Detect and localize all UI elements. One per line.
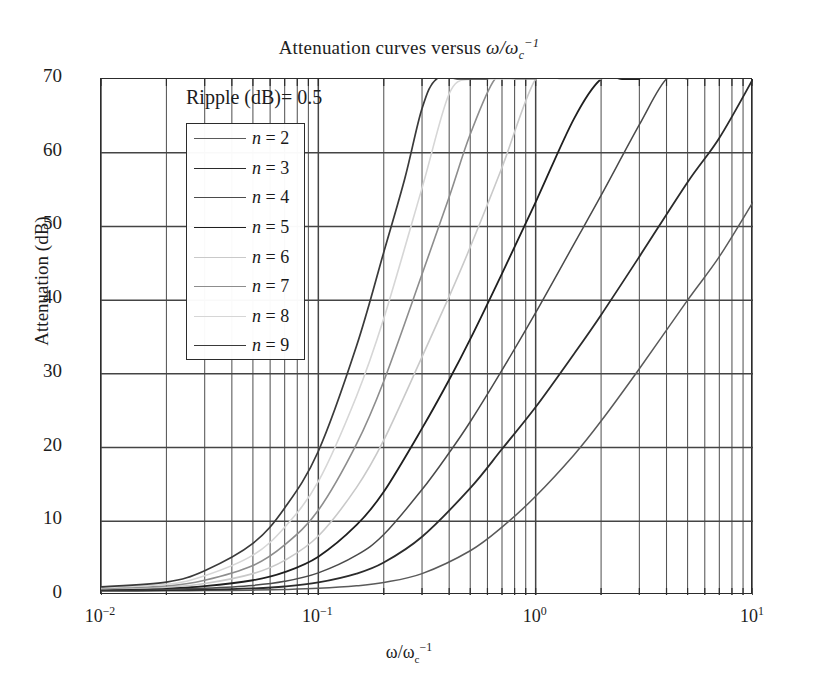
attenuation-chart-figure: Attenuation curves versus ω/ωc−1 Attenua… <box>0 0 818 694</box>
y-tick-label-30: 30 <box>2 360 62 382</box>
xlabel-superscript: −1 <box>420 640 433 654</box>
legend-item-n-7: n = 7 <box>187 272 304 302</box>
x-tick-label-0: 100 <box>500 604 570 627</box>
xlabel-subscript: c <box>415 653 420 665</box>
y-axis-label: Attenuation (dB) <box>31 171 53 391</box>
y-tick-label-0: 0 <box>2 581 62 603</box>
y-tick-label-70: 70 <box>2 65 62 87</box>
legend-line-swatch-n-5 <box>194 227 246 228</box>
title-omega: ω <box>486 37 500 58</box>
chart-title: Attenuation curves versus ω/ωc−1 <box>0 36 818 63</box>
legend-item-n-3: n = 3 <box>187 154 304 184</box>
y-tick-label-40: 40 <box>2 286 62 308</box>
legend-line-swatch-n-9 <box>194 345 246 346</box>
legend-item-n-9: n = 9 <box>187 331 304 361</box>
y-tick-label-20: 20 <box>2 434 62 456</box>
y-tick-label-50: 50 <box>2 212 62 234</box>
legend-line-swatch-n-6 <box>194 257 246 258</box>
legend-line-swatch-n-3 <box>194 168 246 169</box>
ripple-annotation: Ripple (dB)= 0.5 <box>186 86 322 109</box>
x-axis-label: ω/ωc−1 <box>0 640 818 665</box>
legend-label-n-9: n = 9 <box>252 335 289 356</box>
curve-n-5 <box>101 79 639 589</box>
legend: n = 2n = 3n = 4n = 5n = 6n = 7n = 8n = 9 <box>186 123 305 360</box>
legend-line-swatch-n-4 <box>194 197 246 198</box>
y-tick-label-60: 60 <box>2 139 62 161</box>
x-tick-label-1: 101 <box>717 604 787 627</box>
legend-label-n-4: n = 4 <box>252 187 289 208</box>
legend-line-swatch-n-7 <box>194 286 246 287</box>
legend-label-n-2: n = 2 <box>252 128 289 149</box>
curve-n-8 <box>101 79 515 588</box>
legend-label-n-8: n = 8 <box>252 306 289 327</box>
legend-label-n-7: n = 7 <box>252 276 289 297</box>
legend-line-swatch-n-8 <box>194 316 246 317</box>
y-tick-label-10: 10 <box>2 507 62 529</box>
x-tick-label-−2: 10−2 <box>65 604 135 627</box>
legend-line-swatch-n-2 <box>194 138 246 139</box>
legend-label-n-6: n = 6 <box>252 247 289 268</box>
legend-item-n-6: n = 6 <box>187 242 304 272</box>
chart-title-lead: Attenuation curves versus <box>279 37 486 58</box>
xlabel-omega: ω <box>386 642 398 662</box>
legend-label-n-3: n = 3 <box>252 158 289 179</box>
title-omega-c: ω <box>505 37 519 58</box>
x-tick-label-−1: 10−1 <box>282 604 352 627</box>
xlabel-omega-c: ω <box>403 642 415 662</box>
legend-item-n-4: n = 4 <box>187 183 304 213</box>
legend-label-n-5: n = 5 <box>252 217 289 238</box>
title-subscript: c <box>519 49 524 62</box>
title-superscript: −1 <box>524 36 539 50</box>
legend-item-n-8: n = 8 <box>187 302 304 332</box>
legend-item-n-2: n = 2 <box>187 124 304 154</box>
legend-item-n-5: n = 5 <box>187 213 304 243</box>
